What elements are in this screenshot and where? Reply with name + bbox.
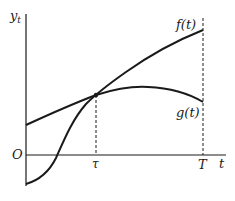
x-axis-label: t	[219, 157, 224, 170]
T-tick-label: T	[198, 158, 207, 171]
origin-label: O	[12, 148, 23, 161]
intersection-point	[94, 93, 98, 97]
y-axis-label: yt	[10, 9, 21, 25]
curve-f-label: f(t)	[176, 18, 196, 31]
tau-tick-label: τ	[92, 158, 99, 170]
function-diagram: yt O τ T t f(t) g(t)	[0, 0, 235, 201]
curve-g-label: g(t)	[176, 106, 200, 119]
